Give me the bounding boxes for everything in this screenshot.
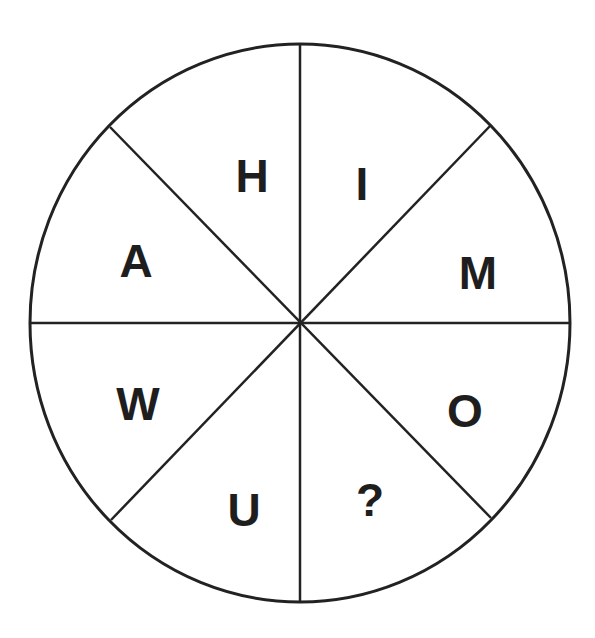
segment-label-h: H	[235, 150, 268, 202]
letter-wheel-diagram: H I M O ? U W A	[0, 0, 595, 638]
segment-label-question: ?	[356, 474, 384, 526]
segment-label-a: A	[119, 235, 152, 287]
segment-label-w: W	[116, 378, 160, 430]
segment-label-m: M	[459, 247, 497, 299]
segment-label-i: I	[356, 158, 369, 210]
segment-label-o: O	[447, 385, 483, 437]
segment-label-u: U	[227, 484, 260, 536]
